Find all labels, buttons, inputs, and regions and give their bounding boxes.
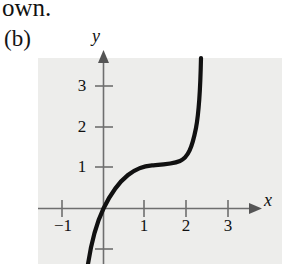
x-tick-label-3: 3: [220, 216, 236, 236]
x-tick-label-2: 2: [178, 216, 194, 236]
x-axis-label: x: [264, 190, 272, 211]
x-axis-arrowhead: [249, 203, 262, 214]
figure-container: own. (b) y x −1 1 2 3: [0, 0, 282, 264]
y-tick-label-1: 1: [74, 157, 90, 177]
y-axis-label: y: [92, 26, 100, 47]
x-tick-label-neg1: −1: [52, 216, 74, 236]
y-tick-label-2: 2: [74, 117, 90, 137]
x-tick-label-1: 1: [136, 216, 152, 236]
y-tick-label-3: 3: [74, 76, 90, 96]
y-axis-arrowhead: [98, 50, 109, 63]
